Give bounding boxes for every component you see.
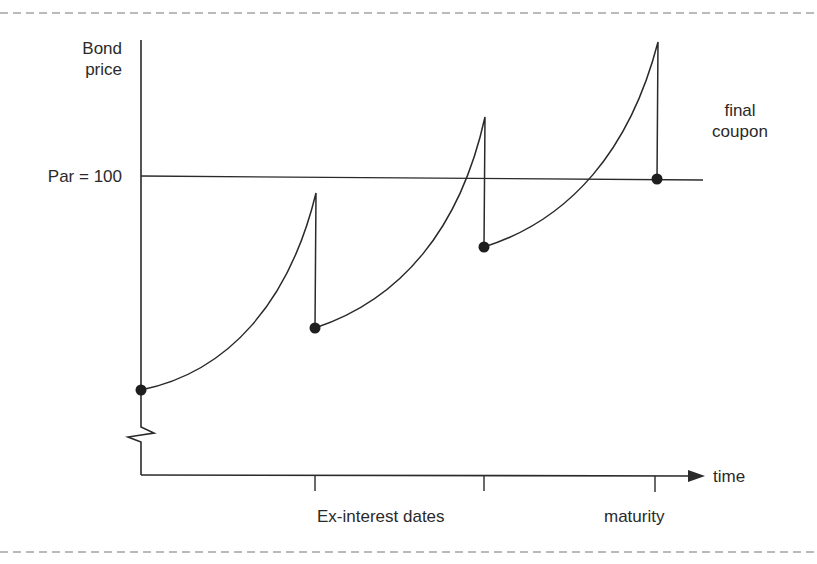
price-marker-start	[136, 385, 147, 396]
final-coupon-line2: coupon	[700, 121, 780, 142]
maturity-label: maturity	[604, 506, 664, 527]
price-marker-ex-date-1	[310, 323, 321, 334]
par-line	[141, 176, 703, 180]
y-axis-label-line2: price	[40, 59, 122, 80]
final-coupon-line1: final	[700, 100, 780, 121]
ex-interest-dates-label: Ex-interest dates	[317, 506, 445, 527]
final-coupon-annotation: final coupon	[700, 100, 780, 142]
price-curve-segment-1	[141, 193, 316, 390]
par-label: Par = 100	[10, 166, 122, 187]
y-axis-label: Bond price	[40, 38, 122, 80]
x-axis-arrowhead-icon	[688, 470, 705, 482]
x-axis-label: time	[713, 466, 745, 487]
price-marker-maturity	[652, 174, 663, 185]
y-axis	[128, 40, 154, 475]
y-axis-label-line1: Bond	[40, 38, 122, 59]
bond-price-diagram	[0, 0, 817, 564]
price-curve-segment-2	[315, 117, 485, 328]
x-axis	[141, 475, 690, 476]
price-marker-ex-date-2	[479, 242, 490, 253]
price-curve-segment-3	[484, 42, 658, 247]
